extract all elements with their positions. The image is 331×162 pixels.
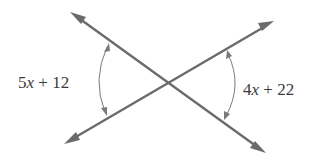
angle-arc-left	[99, 43, 110, 116]
arc-arrow-top-right-icon	[226, 50, 232, 59]
angle-arc-right	[224, 50, 235, 120]
arc-arrow-bottom-left-icon	[101, 107, 107, 116]
arrowhead-lower-left-icon	[64, 132, 80, 144]
arc-arrow-bottom-right-icon	[224, 111, 230, 120]
angle-label-right: 4x + 22	[243, 81, 294, 98]
arc-arrow-top-left-icon	[104, 43, 110, 52]
angle-right-coefficient: 4	[243, 80, 252, 99]
angle-left-coefficient: 5	[18, 73, 27, 92]
angle-right-operator: +	[259, 80, 277, 99]
angle-left-variable: x	[27, 73, 35, 92]
angle-left-operator: +	[34, 73, 52, 92]
angle-right-variable: x	[252, 80, 260, 99]
angle-label-left: 5x + 12	[18, 74, 69, 91]
angle-right-constant: 22	[277, 80, 294, 99]
angle-left-constant: 12	[52, 73, 69, 92]
